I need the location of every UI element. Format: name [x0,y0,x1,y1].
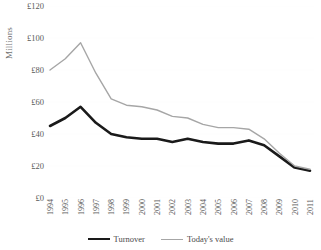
chart-legend: Turnover Today's value [0,231,321,247]
x-tick-label: 1997 [92,185,101,215]
series-line [50,107,310,171]
x-tick-label: 2001 [153,185,162,215]
x-tick-label: 2000 [138,185,147,215]
chart-container: Millions £120£100£80£60£40£20£0 19941995… [0,0,321,250]
x-tick-label: 2011 [306,185,315,215]
x-tick-label: 2003 [184,185,193,215]
legend-item-todays-value: Today's value [161,234,234,244]
y-tick-label: £120 [16,1,44,11]
y-tick-label: £80 [16,65,44,75]
y-tick-label: £60 [16,97,44,107]
y-tick-label: £40 [16,129,44,139]
x-tick-label: 1996 [77,185,86,215]
x-tick-label: 1998 [107,185,116,215]
x-tick-label: 2007 [245,185,254,215]
x-tick-label: 2009 [275,185,284,215]
y-tick-label: £20 [16,161,44,171]
y-tick-label: £100 [16,33,44,43]
y-axis-tick-labels: £120£100£80£60£40£20£0 [12,0,44,250]
x-axis-tick-labels: 1994199519961997199819992000200120022003… [46,196,314,226]
gridlines [46,6,314,198]
x-tick-label: 1995 [61,185,70,215]
chart-plot-svg [46,6,314,198]
x-tick-label: 2002 [168,185,177,215]
x-tick-label: 1999 [122,185,131,215]
x-tick-label: 2010 [291,185,300,215]
x-tick-label: 2004 [199,185,208,215]
legend-item-turnover: Turnover [88,234,145,244]
legend-label-todays-value: Today's value [187,234,234,244]
x-tick-label: 2005 [214,185,223,215]
y-tick-label: £0 [16,193,44,203]
x-tick-label: 2006 [230,185,239,215]
legend-swatch-todays-value [161,239,183,240]
series-lines [50,43,310,171]
x-tick-label: 1994 [46,185,55,215]
x-tick-label: 2008 [260,185,269,215]
legend-label-turnover: Turnover [114,234,145,244]
legend-swatch-turnover [88,238,110,240]
plot-area [46,6,314,198]
